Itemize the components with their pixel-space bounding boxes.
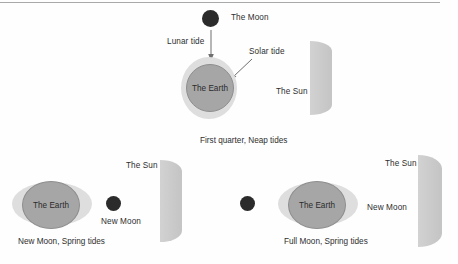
sun-new-moon	[160, 160, 182, 242]
moon-label-full-moon: New Moon	[367, 204, 407, 212]
top-divider-rule	[0, 2, 440, 3]
moon-full-moon	[240, 196, 255, 211]
moon-first-quarter	[202, 10, 219, 27]
sun-label-new-moon: The Sun	[126, 162, 158, 170]
earth-label-full-moon: The Earth	[299, 201, 335, 210]
lunar-tide-label: Lunar tide	[167, 38, 204, 46]
earth-first-quarter: The Earth	[186, 64, 234, 112]
sun-label-first-quarter: The Sun	[276, 88, 308, 96]
caption-new-moon: New Moon, Spring tides	[18, 238, 105, 246]
caption-first-quarter: First quarter, Neap tides	[200, 137, 287, 145]
earth-full-moon: The Earth	[288, 181, 346, 229]
earth-label-new-moon: The Earth	[33, 201, 69, 210]
sun-full-moon	[418, 155, 442, 247]
sun-first-quarter	[310, 41, 332, 115]
solar-tide-label: Solar tide	[249, 48, 285, 56]
moon-label-first-quarter: The Moon	[231, 14, 269, 22]
tides-diagram: The Moon Lunar tide Solar tide The Earth…	[0, 0, 458, 264]
moon-new-moon	[106, 196, 121, 211]
earth-label-first-quarter: The Earth	[192, 84, 228, 93]
caption-full-moon: Full Moon, Spring tides	[284, 238, 368, 246]
sun-label-full-moon: The Sun	[385, 160, 417, 168]
earth-new-moon: The Earth	[22, 181, 80, 229]
moon-label-new-moon: New Moon	[101, 218, 141, 226]
